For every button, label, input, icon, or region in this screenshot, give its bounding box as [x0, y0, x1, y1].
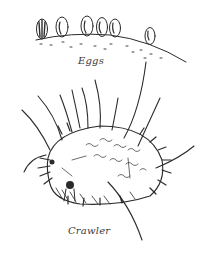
eggs-and-crawler-drawing — [0, 0, 209, 253]
crawler-drawing — [22, 62, 194, 240]
illustration-canvas: Eggs Crawler — [0, 0, 209, 253]
crawler-label: Crawler — [68, 225, 110, 236]
eggs-label: Eggs — [78, 55, 104, 66]
eggs-drawing — [36, 16, 186, 62]
